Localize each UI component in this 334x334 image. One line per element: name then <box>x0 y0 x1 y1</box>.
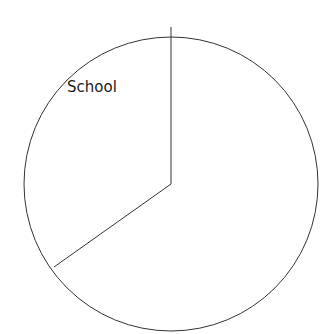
slice-label-school: School <box>67 78 117 96</box>
pie-chart <box>0 0 334 334</box>
